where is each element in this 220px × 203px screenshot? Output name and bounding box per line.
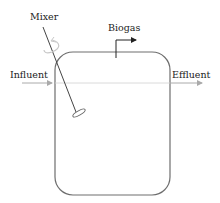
mixer-shaft	[43, 27, 76, 112]
mixer-label: Mixer	[30, 11, 59, 22]
reactor-diagram: Mixer Biogas Influent Effluent	[0, 0, 220, 203]
effluent-label: Effluent	[172, 69, 211, 80]
reactor-vessel	[55, 52, 170, 195]
influent-label: Influent	[10, 69, 48, 80]
biogas-outlet-pipe	[116, 40, 136, 58]
rotation-arrow-icon	[44, 40, 59, 53]
mixer-impeller	[72, 108, 86, 119]
biogas-label: Biogas	[108, 22, 140, 33]
